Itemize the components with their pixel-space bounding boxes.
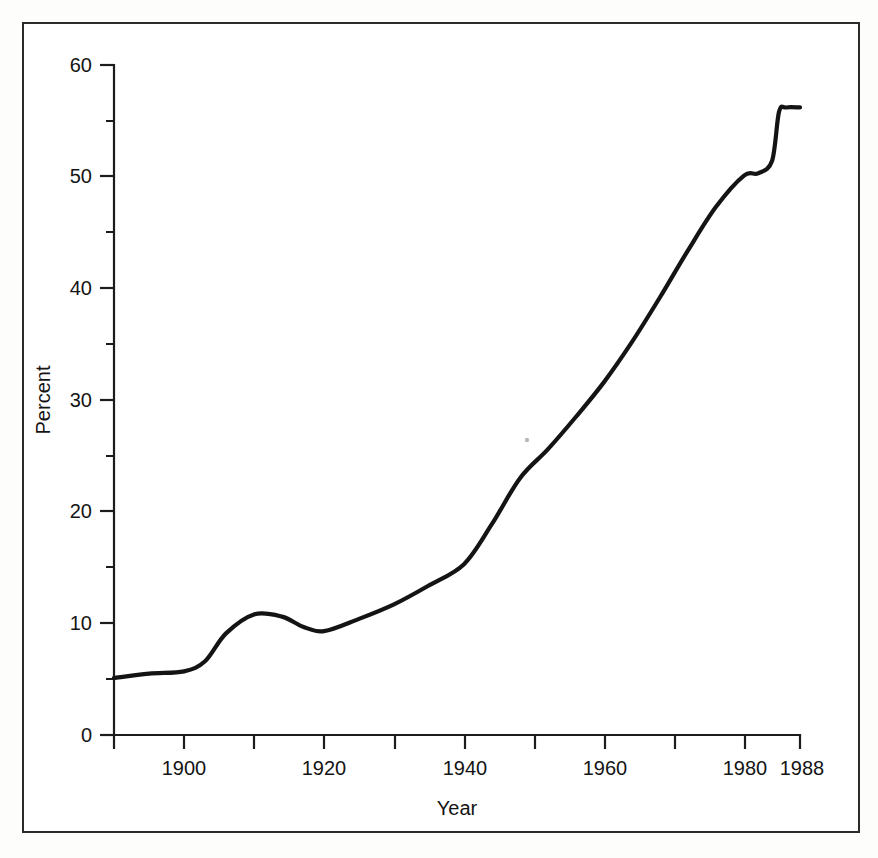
- figure-page: 60 50 40 30 20 10 0 1900 1920 1940: [0, 0, 878, 858]
- figure-frame-border: [22, 22, 860, 833]
